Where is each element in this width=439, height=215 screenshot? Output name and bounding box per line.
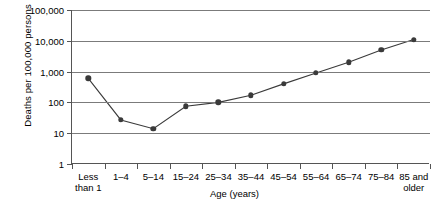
plot-area: 1101001,00010,000100,000Lessthan 11–45–1… [71, 10, 429, 164]
x-axis-tick-label: 55–64 [303, 171, 329, 182]
x-axis-tick-label-line: 55–64 [303, 171, 329, 182]
gridline [72, 41, 430, 42]
x-axis-tick [105, 164, 106, 169]
y-axis-tick-label: 100 [48, 97, 64, 108]
x-axis-tick [137, 164, 138, 169]
x-axis-title: Age (years) [0, 188, 439, 199]
y-axis-tick [67, 72, 72, 73]
x-axis-tick [72, 164, 73, 169]
x-axis-tick-label: 45–54 [270, 171, 296, 182]
x-axis-tick [170, 164, 171, 169]
y-axis-tick-label: 1 [59, 159, 64, 170]
gridline [72, 102, 430, 103]
x-axis-tick-label-line: 45–54 [270, 171, 296, 182]
x-axis-tick [430, 164, 431, 169]
x-axis-tick-label-line: Less [75, 171, 101, 182]
y-axis-tick [67, 10, 72, 11]
y-axis-tick [67, 41, 72, 42]
x-axis-tick-label: 5–14 [143, 171, 164, 182]
x-axis-tick-label-line: 65–74 [335, 171, 361, 182]
data-line [88, 40, 413, 129]
y-axis-tick-label: 1,000 [40, 66, 64, 77]
x-axis-tick-label: 65–74 [335, 171, 361, 182]
x-axis-title-text: Age (years) [180, 188, 259, 199]
gridline [72, 72, 430, 73]
x-axis-tick-label: 25–34 [205, 171, 231, 182]
x-axis-tick-label-line: 35–44 [238, 171, 264, 182]
x-axis-tick [397, 164, 398, 169]
y-axis-tick-label: 10 [53, 128, 64, 139]
deaths-by-age-line-chart: Deaths per 100,000 persons 1101001,00010… [0, 0, 439, 215]
x-axis-tick [267, 164, 268, 169]
x-axis-tick-label-line: 15–24 [173, 171, 199, 182]
x-axis-tick-label: 75–84 [368, 171, 394, 182]
x-axis-tick-label: 35–44 [238, 171, 264, 182]
gridline [72, 10, 430, 11]
gridline [72, 133, 430, 134]
y-axis-tick-label: 10,000 [35, 35, 64, 46]
y-axis-tick [67, 102, 72, 103]
x-axis-tick-label-line: 75–84 [368, 171, 394, 182]
x-axis-tick [235, 164, 236, 169]
x-axis-tick-label-line: 25–34 [205, 171, 231, 182]
x-axis-tick-label-line: 85 and [399, 171, 428, 182]
y-axis-tick-label: 100,000 [30, 5, 64, 16]
x-axis-tick-label: 15–24 [173, 171, 199, 182]
y-axis-title: Deaths per 100,000 persons [22, 0, 33, 141]
x-axis-tick [332, 164, 333, 169]
x-axis-tick [365, 164, 366, 169]
x-axis-tick [300, 164, 301, 169]
x-axis-tick [202, 164, 203, 169]
x-axis-tick-label-line: 1–4 [113, 171, 129, 182]
x-axis-tick-label-line: 5–14 [143, 171, 164, 182]
x-axis-tick-label: 1–4 [113, 171, 129, 182]
series-line [72, 10, 430, 164]
y-axis-tick [67, 133, 72, 134]
